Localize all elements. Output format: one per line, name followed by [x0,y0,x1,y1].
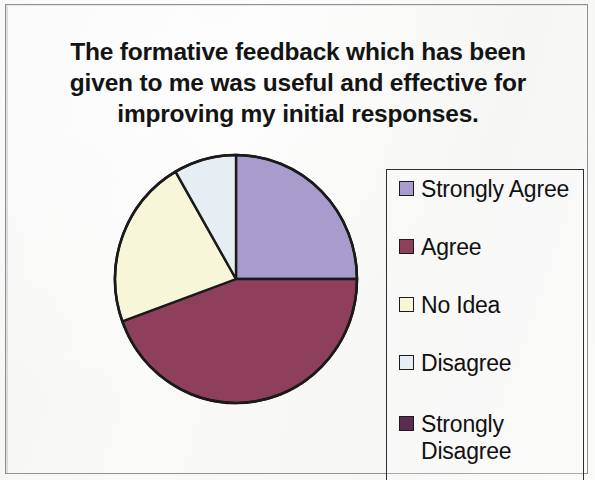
chart-title: The formative feedback which has been gi… [48,36,548,129]
chart-legend: Strongly Agree Agree No Idea Disagree St… [386,169,584,480]
legend-label-disagree: Disagree [421,350,511,377]
legend-swatch-strongly-disagree [399,416,414,431]
legend-item-strongly-disagree[interactable]: Strongly Disagree [399,411,511,465]
legend-swatch-disagree [399,355,414,370]
legend-item-no-idea[interactable]: No Idea [399,292,500,319]
legend-item-strongly-agree[interactable]: Strongly Agree [399,176,569,203]
legend-swatch-strongly-agree [399,181,414,196]
pie-chart [112,153,364,408]
legend-item-disagree[interactable]: Disagree [399,350,511,377]
legend-label-no-idea: No Idea [421,292,500,319]
legend-label-agree: Agree [421,234,481,261]
legend-swatch-agree [399,239,414,254]
screenshot-root: The formative feedback which has been gi… [0,0,595,480]
legend-item-agree[interactable]: Agree [399,234,481,261]
legend-label-strongly-disagree: Strongly Disagree [421,411,511,465]
legend-label-strongly-agree: Strongly Agree [421,176,569,203]
legend-swatch-no-idea [399,297,414,312]
pie-slice-strongly-agree[interactable] [236,155,357,279]
pie-chart-svg [112,153,364,408]
